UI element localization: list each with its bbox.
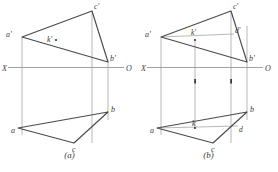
label-x-axis: X [140, 64, 147, 73]
label-k-prime: k' [191, 28, 196, 37]
point-k-prime-marker [55, 39, 57, 41]
figure-b-svg: a' c' b' k' d' a b c d k X O [139, 0, 278, 172]
label-k: k [192, 119, 196, 128]
label-b-prime: b' [249, 54, 255, 63]
drawing-canvas: a' c' b' k' a b c X O (a) [0, 0, 278, 172]
label-d-prime: d' [235, 26, 241, 35]
label-b: b [250, 105, 254, 114]
auxiliary-line-a-d-prime [161, 34, 234, 37]
label-a-prime: a' [6, 30, 12, 39]
frontal-triangle [22, 11, 108, 62]
projector-k-tick [194, 79, 196, 84]
figure-a-caption: (a) [0, 150, 139, 160]
label-c-prime: c' [233, 2, 239, 11]
figure-b-caption: (b) [139, 150, 278, 160]
label-a: a [150, 126, 154, 135]
label-b: b [111, 105, 115, 114]
figure-b: a' c' b' k' d' a b c d k X O (b) [139, 0, 278, 172]
label-c-prime: c' [94, 2, 100, 11]
figure-a: a' c' b' k' a b c X O (a) [0, 0, 139, 172]
horizontal-triangle [18, 112, 108, 143]
label-x-axis: X [1, 64, 8, 73]
label-k-prime: k' [47, 35, 53, 44]
label-b-prime: b' [110, 54, 116, 63]
label-a: a [11, 126, 15, 135]
figure-a-svg: a' c' b' k' a b c X O [0, 0, 139, 172]
projector-c-tick [230, 79, 232, 84]
point-k-prime-marker [194, 39, 196, 41]
label-d: d [239, 125, 243, 134]
label-a-prime: a' [145, 30, 151, 39]
label-o-axis: O [265, 64, 271, 73]
label-o-axis: O [126, 64, 132, 73]
